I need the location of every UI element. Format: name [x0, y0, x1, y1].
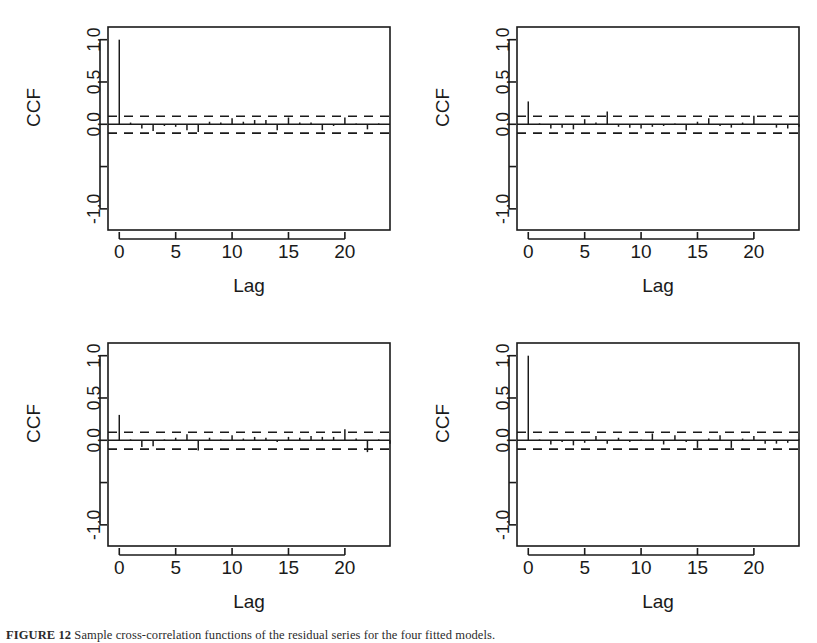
- x-axis-tick-label: 0: [114, 241, 125, 262]
- plot-frame: [108, 27, 390, 230]
- x-axis-title: Lag: [233, 591, 265, 612]
- x-axis-tick-label: 20: [743, 557, 764, 578]
- y-axis-tick-label: 0.0: [493, 112, 513, 137]
- ccf-plot: -1.00.00.51.0CCF05101520Lag: [0, 316, 408, 623]
- plot-frame: [517, 27, 799, 230]
- x-axis-tick-label: 15: [687, 241, 708, 262]
- x-axis-tick-label: 10: [631, 241, 652, 262]
- x-axis-tick-label: 20: [334, 241, 355, 262]
- ccf-plot: -1.00.00.51.0CCF05101520Lag: [409, 0, 817, 307]
- x-axis-tick-label: 0: [523, 557, 534, 578]
- y-axis-tick-label: 0.5: [493, 70, 513, 94]
- y-axis-tick-label: 1.0: [84, 343, 104, 368]
- figure-caption-text: FIGURE 12 Sample cross-correlation funct…: [6, 630, 811, 642]
- y-axis-title: CCF: [24, 404, 45, 443]
- y-axis-tick-label: 1.0: [493, 27, 513, 52]
- x-axis-tick-label: 5: [579, 557, 590, 578]
- x-axis-title: Lag: [642, 591, 674, 612]
- y-axis-tick-label: 0.0: [493, 428, 513, 453]
- ccf-plot: -1.00.00.51.0CCF05101520Lag: [409, 316, 817, 623]
- plot-frame: [108, 343, 390, 546]
- x-axis-tick-label: 5: [579, 241, 590, 262]
- figure-root: -1.00.00.51.0CCF05101520Lag -1.00.00.51.…: [0, 0, 817, 643]
- y-axis-tick-label: 0.5: [493, 386, 513, 410]
- y-axis: -1.00.00.51.0CCF: [24, 27, 108, 224]
- y-axis-tick-label: 0.5: [84, 70, 104, 94]
- x-axis-tick-label: 10: [222, 241, 243, 262]
- y-axis-title: CCF: [24, 88, 45, 127]
- x-axis-title: Lag: [642, 275, 674, 296]
- x-axis-tick-label: 5: [170, 557, 181, 578]
- plot-frame: [517, 343, 799, 546]
- figure-caption-body: Sample cross-correlation functions of th…: [71, 630, 495, 642]
- y-axis-tick-label: 1.0: [84, 27, 104, 52]
- panel-bottom-left: -1.00.00.51.0CCF05101520Lag: [0, 316, 408, 623]
- y-axis-tick-label: -1.0: [84, 194, 104, 224]
- x-axis: 05101520Lag: [114, 232, 355, 296]
- x-axis: 05101520Lag: [523, 548, 764, 612]
- x-axis: 05101520Lag: [114, 548, 355, 612]
- y-axis-tick-label: -1.0: [493, 194, 513, 224]
- x-axis-tick-label: 15: [687, 557, 708, 578]
- y-axis-title: CCF: [433, 88, 454, 127]
- x-axis-tick-label: 10: [222, 557, 243, 578]
- y-axis-tick-label: 1.0: [493, 343, 513, 368]
- y-axis-title: CCF: [433, 404, 454, 443]
- x-axis-tick-label: 5: [170, 241, 181, 262]
- x-axis-tick-label: 15: [278, 557, 299, 578]
- x-axis-tick-label: 15: [278, 241, 299, 262]
- panel-bottom-right: -1.00.00.51.0CCF05101520Lag: [409, 316, 817, 623]
- x-axis: 05101520Lag: [523, 232, 764, 296]
- ccf-spikes: [119, 40, 378, 132]
- figure-caption: FIGURE 12 Sample cross-correlation funct…: [0, 630, 817, 643]
- y-axis: -1.00.00.51.0CCF: [433, 343, 517, 540]
- ccf-plot: -1.00.00.51.0CCF05101520Lag: [0, 0, 408, 307]
- y-axis-tick-label: 0.0: [84, 428, 104, 453]
- x-axis-tick-label: 20: [334, 557, 355, 578]
- x-axis-tick-label: 0: [523, 241, 534, 262]
- x-axis-tick-label: 0: [114, 557, 125, 578]
- ccf-spikes: [528, 356, 799, 448]
- x-axis-title: Lag: [233, 275, 265, 296]
- figure-caption-label: FIGURE 12: [6, 630, 71, 642]
- panel-top-right: -1.00.00.51.0CCF05101520Lag: [409, 0, 817, 307]
- ccf-spikes: [119, 415, 390, 452]
- y-axis-tick-label: 0.5: [84, 386, 104, 410]
- x-axis-tick-label: 20: [743, 241, 764, 262]
- y-axis-tick-label: -1.0: [493, 510, 513, 540]
- y-axis-tick-label: -1.0: [84, 510, 104, 540]
- y-axis: -1.00.00.51.0CCF: [24, 343, 108, 540]
- panel-top-left: -1.00.00.51.0CCF05101520Lag: [0, 0, 408, 307]
- y-axis-tick-label: 0.0: [84, 112, 104, 137]
- y-axis: -1.00.00.51.0CCF: [433, 27, 517, 224]
- x-axis-tick-label: 10: [631, 557, 652, 578]
